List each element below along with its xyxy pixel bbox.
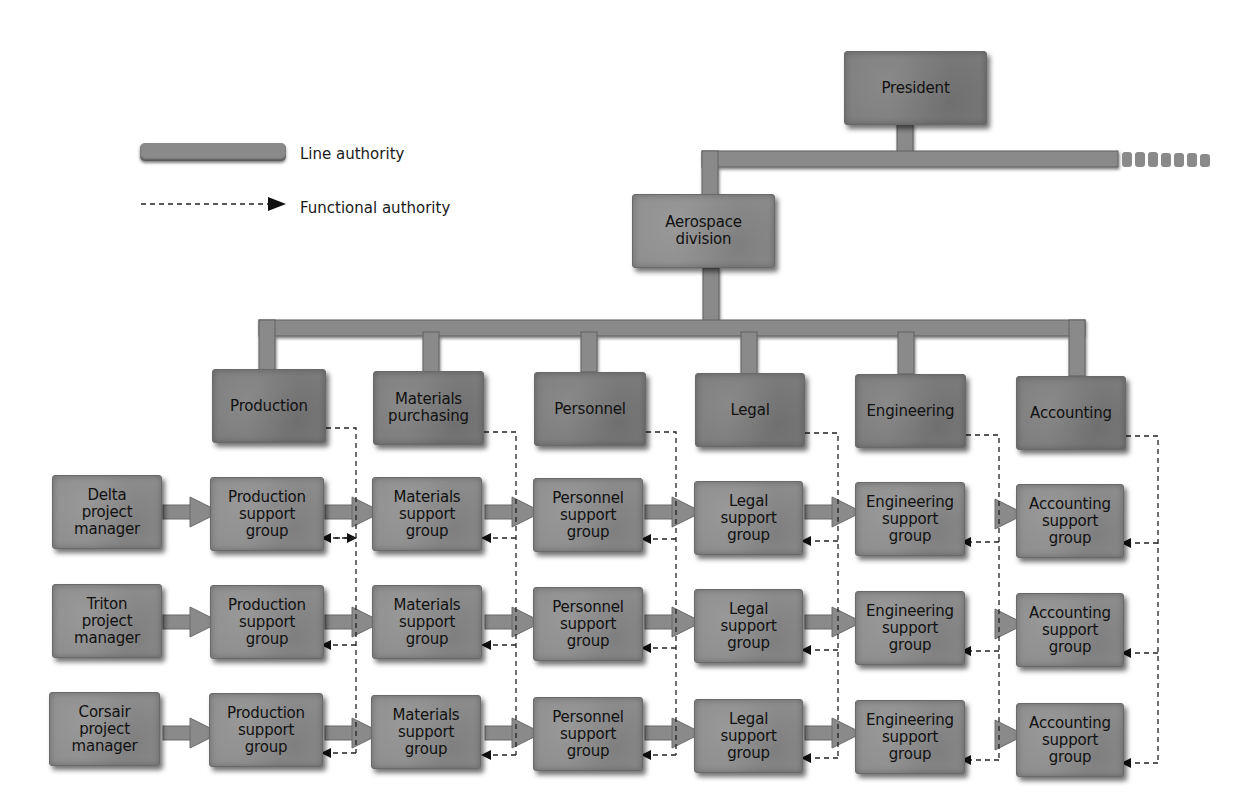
corsair-legal-support-group: Legal support group [694, 699, 803, 773]
legend-line-authority-swatch [140, 143, 286, 161]
department-personnel: Personnel [534, 372, 646, 446]
department-accounting: Accounting [1016, 376, 1126, 450]
legend-dashed-arrow [141, 197, 286, 211]
delta-accounting-support-group: Accounting support group [1016, 484, 1124, 558]
triton-personnel-support-group: Personnel support group [533, 587, 643, 661]
delta-legal-support-group: Legal support group [694, 481, 803, 555]
triton-materials-support-group: Materials support group [372, 585, 482, 659]
triton-production-support-group: Production support group [210, 585, 324, 659]
corsair-personnel-support-group: Personnel support group [533, 697, 643, 771]
triton-engineering-support-group: Engineering support group [855, 591, 965, 665]
aerospace-division-label: Aerospace division [665, 214, 741, 248]
delta-materials-support-group: Materials support group [372, 477, 482, 551]
corsair-engineering-support-group: Engineering support group [855, 700, 965, 774]
line-authority-continuation [1122, 152, 1210, 167]
president-box: President [844, 51, 987, 125]
legend-functional-authority-label: Functional authority [300, 199, 450, 217]
project-manager-corsair: Corsair project manager [49, 692, 160, 766]
department-legal: Legal [695, 373, 805, 447]
project-manager-delta: Delta project manager [52, 475, 162, 549]
corsair-materials-support-group: Materials support group [371, 695, 481, 769]
delta-personnel-support-group: Personnel support group [533, 478, 643, 552]
corsair-production-support-group: Production support group [209, 693, 323, 767]
corsair-accounting-support-group: Accounting support group [1016, 703, 1124, 777]
triton-accounting-support-group: Accounting support group [1016, 593, 1124, 667]
department-engineering: Engineering [855, 374, 966, 448]
matrix-organization-chart: Line authority Functional authority Pres… [0, 0, 1233, 812]
delta-production-support-group: Production support group [210, 477, 324, 551]
aerospace-division-box: Aerospace division [632, 194, 775, 268]
delta-engineering-support-group: Engineering support group [855, 482, 965, 556]
president-label: President [881, 80, 949, 97]
triton-legal-support-group: Legal support group [694, 589, 803, 663]
department-materials-purchasing: Materials purchasing [373, 371, 484, 445]
department-production: Production [212, 369, 326, 443]
project-manager-triton: Triton project manager [52, 584, 162, 658]
legend-line-authority-label: Line authority [300, 145, 404, 163]
